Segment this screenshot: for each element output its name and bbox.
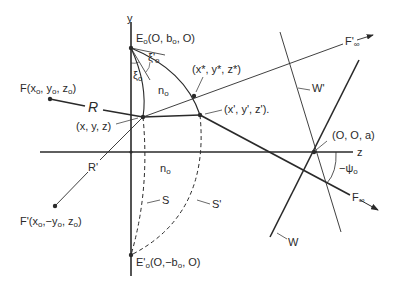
xi-arc xyxy=(131,62,139,63)
xi0-prime-label: ξ'o xyxy=(148,52,159,65)
n0-upper-label: no xyxy=(158,85,169,98)
point-E0 xyxy=(129,46,133,50)
point-y-z-origin xyxy=(129,150,132,153)
point-xyz-prime xyxy=(198,113,202,117)
F-infinity-label: F∞ xyxy=(352,192,364,205)
leader-W-prime xyxy=(298,88,310,90)
point-xyz xyxy=(141,115,145,119)
psi0-label: −ψo xyxy=(339,163,358,176)
ray-R-label: R xyxy=(88,100,98,114)
surface-S xyxy=(131,117,145,255)
point-E0-prime xyxy=(129,253,133,257)
F-infinity-prime-label: F'∞ xyxy=(345,36,360,49)
xyz-label: (x, y, z) xyxy=(76,121,111,132)
point-F xyxy=(48,97,52,101)
n0-lower-label: no xyxy=(160,163,171,176)
leader-W xyxy=(277,233,287,239)
surface-S-prime-label: S' xyxy=(212,199,221,210)
leader-xyz-star xyxy=(196,77,203,92)
leader-xyz xyxy=(116,118,138,124)
point-origin-a xyxy=(312,150,316,154)
ray-R-segment-1 xyxy=(50,99,85,106)
E0-label: Eo(O, bo, O) xyxy=(136,33,195,46)
wavefront-W-label: W xyxy=(288,237,298,248)
F-label: F(xo, yo, zo) xyxy=(20,83,76,96)
leader-xyz-prime xyxy=(205,110,222,114)
ray-inside-lens xyxy=(143,115,200,117)
F-prime-label: F'(xo,−yo, zo) xyxy=(20,216,82,229)
origin-a-label: (O, O, a) xyxy=(332,130,375,141)
point-F-prime xyxy=(53,204,57,208)
y-axis-label: y xyxy=(127,13,133,24)
lens-geometry-diagram: y z Eo(O, bo, O) E'o(O,−bo, O) F(xo, yo,… xyxy=(0,0,397,285)
ray-R-prime-1 xyxy=(55,172,88,206)
E0-prime-label: E'o(O,−bo, O) xyxy=(136,257,201,270)
surface-S-label: S xyxy=(162,195,169,206)
ray-R-prime-label: R' xyxy=(88,162,98,173)
diagram-canvas xyxy=(0,0,397,285)
wavefront-W-prime-label: W' xyxy=(312,83,324,94)
z-axis-label: z xyxy=(357,147,363,158)
xyz-star-label: (x*, y*, z*) xyxy=(192,64,241,75)
leader-S-prime xyxy=(197,200,210,204)
xyz-prime-label: (x', y', z'). xyxy=(224,104,269,115)
point-xyz-star xyxy=(192,94,196,98)
ray-R-segment-2 xyxy=(103,110,143,117)
surface-S-prime xyxy=(131,115,201,255)
psi-arc xyxy=(327,152,336,183)
xi0-label: ξo xyxy=(133,70,142,83)
leader-S xyxy=(147,200,160,203)
